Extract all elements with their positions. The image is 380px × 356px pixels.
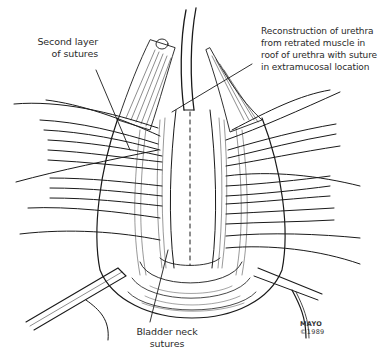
label-second-layer-of-sutures: Second layer of sutures bbox=[36, 36, 98, 59]
label-line: Second layer bbox=[36, 36, 98, 48]
label-line: of sutures bbox=[36, 48, 98, 60]
credit-year: ©1989 bbox=[300, 329, 325, 337]
label-line: Bladder neck bbox=[122, 326, 212, 338]
label-line: from retrated muscle in bbox=[261, 37, 380, 49]
surgical-illustration: Second layer of sutures Reconstruction o… bbox=[0, 0, 380, 356]
label-line: in extramucosal location bbox=[261, 61, 380, 73]
label-line: Reconstruction of urethra bbox=[261, 25, 380, 37]
copyright-credit: MAYO ©1989 bbox=[300, 321, 325, 336]
label-urethra-reconstruction: Reconstruction of urethra from retrated … bbox=[261, 25, 380, 73]
label-bladder-neck-sutures: Bladder neck sutures bbox=[122, 326, 212, 349]
label-line: sutures bbox=[122, 338, 212, 350]
label-line: roof of urethra with suture bbox=[261, 49, 380, 61]
